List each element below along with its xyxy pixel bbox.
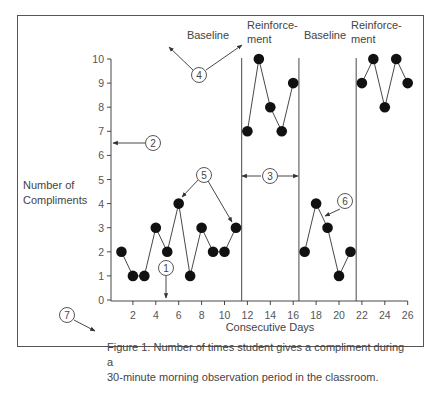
- y-tick-label: 10: [92, 53, 104, 65]
- x-axis-label: Consecutive Days: [226, 321, 315, 333]
- data-point: [402, 78, 413, 89]
- data-point: [368, 54, 379, 65]
- data-point: [128, 271, 139, 282]
- annotation-7-number: 7: [64, 310, 70, 321]
- phase-label: Baseline: [304, 29, 346, 41]
- phase-label: Baseline: [187, 29, 229, 41]
- data-point: [265, 102, 276, 113]
- data-point: [185, 271, 196, 282]
- y-tick-label: 1: [98, 270, 104, 282]
- x-tick-label: 22: [356, 309, 368, 321]
- x-tick-label: 26: [402, 309, 414, 321]
- y-tick-label: 3: [98, 222, 104, 234]
- annotation-1-number: 1: [163, 263, 169, 274]
- data-point: [322, 222, 333, 233]
- annotation-6-number: 6: [342, 196, 348, 207]
- phase-label: Reinforce-: [247, 19, 298, 31]
- annotation-6-arrow: [325, 209, 340, 216]
- y-tick-label: 7: [98, 125, 104, 137]
- data-point: [380, 102, 391, 113]
- y-axis-label-line2: Compliments: [23, 194, 88, 206]
- annotation-7-arrow: [74, 320, 95, 331]
- caption-line-1: Figure 1. Number of times student gives …: [107, 340, 407, 370]
- x-tick-label: 4: [153, 309, 159, 321]
- y-tick-label: 6: [98, 149, 104, 161]
- data-point: [334, 271, 345, 282]
- x-tick-label: 20: [333, 309, 345, 321]
- annotation-2-number: 2: [150, 138, 156, 149]
- x-tick-label: 16: [287, 309, 299, 321]
- y-axis-label-line1: Number of: [23, 179, 75, 191]
- data-point: [173, 198, 184, 209]
- y-tick-label: 9: [98, 77, 104, 89]
- data-point: [276, 126, 287, 137]
- series-line-4: [362, 59, 408, 107]
- data-point: [151, 222, 162, 233]
- annotation-4-arrow-left: [169, 47, 193, 70]
- y-tick-label: 4: [98, 198, 104, 210]
- phase-label: Reinforce-: [351, 19, 402, 31]
- data-point: [345, 247, 356, 258]
- phase-label: ment: [247, 33, 271, 45]
- annotation-4-number: 4: [196, 70, 202, 81]
- phase-label: ment: [351, 33, 375, 45]
- data-point: [219, 247, 230, 258]
- data-point: [311, 198, 322, 209]
- annotation-5-arrow-right: [208, 181, 232, 222]
- x-tick-label: 2: [130, 309, 136, 321]
- data-point: [116, 247, 127, 258]
- data-point: [288, 78, 299, 89]
- series-line-2: [247, 59, 293, 131]
- x-tick-label: 24: [379, 309, 391, 321]
- series-line-1: [121, 204, 236, 276]
- data-point: [299, 247, 310, 258]
- data-point: [139, 271, 150, 282]
- y-tick-label: 5: [98, 174, 104, 186]
- data-point: [162, 247, 173, 258]
- x-tick-label: 6: [176, 309, 182, 321]
- annotation-3-number: 3: [267, 171, 273, 182]
- annotation-4-arrow-right: [206, 45, 242, 70]
- data-point: [391, 54, 402, 65]
- x-tick-label: 18: [310, 309, 322, 321]
- annotation-5-number: 5: [201, 170, 207, 181]
- annotation-5-arrow-left: [182, 180, 198, 197]
- y-tick-label: 0: [98, 294, 104, 306]
- chart: 0123456789102468101214161820222426 Basel…: [0, 0, 437, 395]
- data-point: [208, 247, 219, 258]
- data-point: [357, 78, 368, 89]
- figure-caption: Figure 1. Number of times student gives …: [107, 340, 407, 385]
- x-tick-label: 8: [199, 309, 205, 321]
- x-tick-label: 14: [264, 309, 276, 321]
- y-tick-label: 8: [98, 101, 104, 113]
- x-tick-label: 12: [242, 309, 254, 321]
- y-tick-label: 2: [98, 246, 104, 258]
- data-point: [196, 222, 207, 233]
- data-point: [231, 222, 242, 233]
- caption-line-2: 30-minute morning observation period in …: [107, 370, 407, 385]
- data-point: [254, 54, 265, 65]
- x-tick-label: 10: [219, 309, 231, 321]
- data-point: [242, 126, 253, 137]
